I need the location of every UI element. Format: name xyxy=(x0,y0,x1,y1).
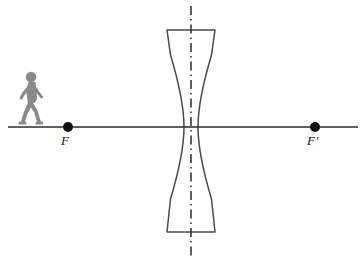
focal-point-left xyxy=(63,122,73,132)
focal-point-left-label: F xyxy=(61,133,69,149)
optics-diagram: F F′ xyxy=(0,0,360,261)
focal-point-right-label: F′ xyxy=(307,133,319,149)
optics-canvas xyxy=(0,0,360,261)
focal-point-right xyxy=(310,122,320,132)
walking-person-silhouette xyxy=(18,72,43,125)
